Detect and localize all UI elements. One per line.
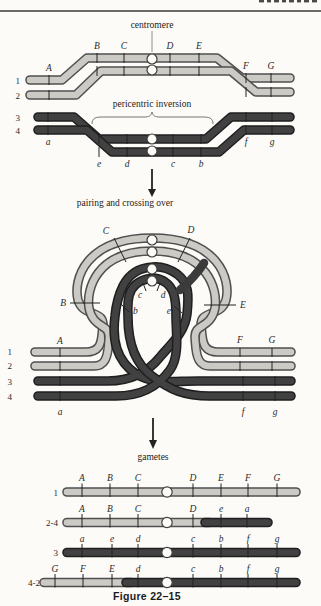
svg-text:e: e [110, 534, 114, 544]
svg-text:D: D [189, 504, 197, 514]
centromere-circle [147, 134, 157, 144]
centromere-circle [162, 547, 172, 557]
pairing-label: pairing and crossing over [77, 198, 174, 208]
centromere-circle [147, 235, 157, 245]
svg-text:b: b [133, 306, 138, 316]
svg-text:B: B [94, 41, 100, 51]
svg-text:G: G [52, 564, 59, 574]
svg-text:C: C [103, 226, 110, 236]
svg-text:c: c [138, 290, 143, 300]
svg-text:f: f [247, 534, 251, 544]
svg-text:a: a [46, 137, 51, 147]
gamete-label-3: 3 [54, 548, 59, 558]
middle-row-labels: 1 2 3 4 [8, 347, 13, 402]
svg-text:D: D [189, 473, 197, 483]
centromere-circle [147, 247, 157, 257]
svg-text:g: g [273, 407, 278, 417]
centromere-circle [162, 517, 172, 527]
svg-text:E: E [108, 564, 115, 574]
svg-text:C: C [121, 41, 128, 51]
gamete-row-4-2: 4-2 G F E d c b f g [28, 564, 296, 589]
svg-text:F: F [79, 564, 86, 574]
svg-text:b: b [199, 159, 204, 169]
centromere-circle [162, 577, 172, 587]
svg-text:G: G [268, 61, 275, 71]
gamete-row-3: 3 a e d c b f g [54, 534, 297, 559]
svg-text:B: B [60, 298, 66, 308]
svg-text:A: A [78, 473, 85, 483]
svg-text:d: d [125, 159, 130, 169]
svg-text:a: a [245, 504, 250, 514]
svg-text:g: g [275, 534, 280, 544]
svg-text:F: F [236, 335, 243, 345]
svg-text:F: F [244, 473, 251, 483]
svg-text:E: E [217, 473, 224, 483]
svg-text:e: e [219, 504, 223, 514]
svg-text:a: a [80, 534, 85, 544]
svg-text:A: A [45, 63, 52, 73]
svg-text:b: b [219, 564, 224, 574]
svg-text:a: a [58, 407, 63, 417]
svg-text:d: d [136, 534, 141, 544]
svg-text:D: D [166, 41, 174, 51]
figure-caption: Figure 22–15 [113, 590, 181, 602]
svg-text:G: G [274, 473, 281, 483]
svg-text:C: C [135, 504, 142, 514]
centromere-circle [147, 264, 157, 274]
gamete-label-1: 1 [54, 488, 59, 498]
svg-text:g: g [270, 137, 275, 147]
gamete-row-1: 1 A B C D E F G [54, 473, 297, 498]
svg-text:g: g [275, 564, 280, 574]
gametes-label: gametes [137, 452, 168, 462]
svg-text:c: c [191, 534, 196, 544]
svg-text:c: c [191, 564, 196, 574]
pericentric-inversion-label: pericentric inversion [113, 99, 192, 109]
flow-arrow-gametes [149, 418, 157, 449]
row-label-4: 4 [8, 392, 13, 402]
textbook-page: centromere 1 2 3 4 A B C D [0, 0, 321, 606]
svg-text:A: A [78, 504, 85, 514]
centromere-circle [147, 65, 157, 75]
row-label-2: 2 [16, 91, 21, 101]
centromere-circle [162, 487, 172, 497]
svg-text:d: d [161, 290, 166, 300]
svg-text:B: B [107, 473, 113, 483]
top-row-labels: 1 2 3 4 [16, 76, 21, 136]
svg-text:E: E [195, 41, 202, 51]
svg-text:C: C [135, 473, 142, 483]
gamete-label-4-2: 4-2 [28, 578, 40, 588]
svg-text:B: B [107, 504, 113, 514]
svg-text:f: f [242, 407, 246, 417]
gamete-label-2-4: 2-4 [46, 518, 58, 528]
svg-text:A: A [56, 336, 63, 346]
row-label-1: 1 [8, 347, 13, 357]
gamete-row-2-4: 2-4 A B C D e a [46, 504, 268, 529]
flow-arrow-pairing [148, 169, 156, 197]
row-label-3: 3 [16, 113, 21, 123]
figure-22-15-diagram: centromere 1 2 3 4 A B C D [0, 0, 321, 606]
centromere-circle [147, 54, 157, 64]
svg-text:e: e [167, 306, 171, 316]
svg-text:d: d [136, 564, 141, 574]
centromere-circle [147, 276, 157, 286]
svg-text:f: f [245, 137, 249, 147]
centromere-circle [147, 146, 157, 156]
svg-text:b: b [219, 534, 224, 544]
svg-text:G: G [269, 335, 276, 345]
inversion-brace [92, 112, 213, 124]
page-header-partial [259, 0, 317, 2]
svg-text:E: E [239, 300, 246, 310]
svg-text:D: D [187, 225, 195, 235]
row-label-1: 1 [16, 76, 21, 86]
svg-text:c: c [171, 159, 176, 169]
row-label-3: 3 [8, 377, 13, 387]
row-label-4: 4 [16, 126, 21, 136]
svg-text:F: F [242, 61, 249, 71]
svg-text:e: e [97, 159, 101, 169]
centromere-label: centromere [131, 20, 174, 30]
svg-text:f: f [247, 564, 251, 574]
row-label-2: 2 [8, 361, 13, 371]
